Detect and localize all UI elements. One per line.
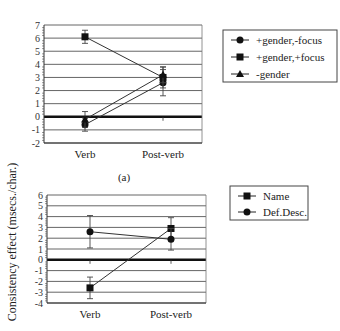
y-tick-label: -1 <box>35 265 43 276</box>
y-tick-label: 2 <box>35 85 40 96</box>
x-category-label: Verb <box>80 308 101 320</box>
y-tick-label: 0 <box>38 254 43 265</box>
y-tick-label: 2 <box>38 233 43 244</box>
x-category-label: Verb <box>75 148 96 160</box>
y-tick-label: 1 <box>38 244 43 255</box>
legend-circle-icon <box>237 37 244 44</box>
legend-label: +gender,-focus <box>256 34 322 46</box>
circle-marker-icon <box>168 236 175 243</box>
chart-panel-a: 76543210-1-2VerbPost-verb+gender,-focus+… <box>32 20 337 161</box>
series--gender <box>81 67 167 127</box>
y-tick-label: 3 <box>35 72 40 83</box>
y-tick-label: 3 <box>38 222 43 233</box>
legend-circle-icon <box>244 209 251 216</box>
y-axis-label: Consistency effect (msecs./char.) <box>5 163 19 321</box>
y-tick-label: 4 <box>35 59 40 70</box>
y-tick-label: -4 <box>35 298 43 309</box>
legend-label: +gender,+focus <box>256 51 324 63</box>
series--gender-focus <box>82 70 167 132</box>
circle-marker-icon <box>87 228 94 235</box>
square-marker-icon <box>87 284 94 291</box>
legend-square-icon <box>237 54 244 61</box>
panel-a-caption: (a) <box>118 171 131 184</box>
y-tick-label: 5 <box>38 200 43 211</box>
y-tick-label: -2 <box>32 138 40 149</box>
x-category-label: Post-verb <box>150 308 193 320</box>
series-name <box>87 218 175 299</box>
legend-label: -gender <box>256 68 290 80</box>
legend: +gender,-focus+gender,+focus-gender <box>223 30 337 82</box>
y-tick-label: 1 <box>35 98 40 109</box>
y-tick-label: 6 <box>35 33 40 44</box>
figure: 76543210-1-2VerbPost-verb+gender,-focus+… <box>0 0 340 331</box>
y-tick-label: -1 <box>32 124 40 135</box>
x-category-label: Post-verb <box>142 148 185 160</box>
legend-square-icon <box>244 193 251 200</box>
legend-label: Name <box>263 190 289 202</box>
y-tick-label: 5 <box>35 46 40 57</box>
y-tick-label: 0 <box>35 111 40 122</box>
y-tick-label: -3 <box>35 287 43 298</box>
y-tick-label: 4 <box>38 211 43 222</box>
y-tick-label: 7 <box>35 20 40 31</box>
y-tick-label: -2 <box>35 276 43 287</box>
series-def-desc- <box>87 216 175 251</box>
y-tick-label: 6 <box>38 190 43 201</box>
chart-panel-b: 6543210-1-2-3-4VerbPost-verbNameDef.Desc… <box>35 186 308 320</box>
legend: NameDef.Desc. <box>230 186 308 220</box>
series--gender-focus <box>82 30 167 88</box>
square-marker-icon <box>82 33 89 40</box>
legend-label: Def.Desc. <box>263 206 307 218</box>
